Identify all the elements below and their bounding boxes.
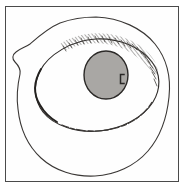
figure-root: Concentric blob drawing with shaded cent… [0,0,185,191]
inner-contour-lower-accent [62,102,152,131]
figure-drawing-canvas [0,0,185,191]
central-disc-layer [56,49,128,104]
inner-contour-left-accent [35,69,57,122]
